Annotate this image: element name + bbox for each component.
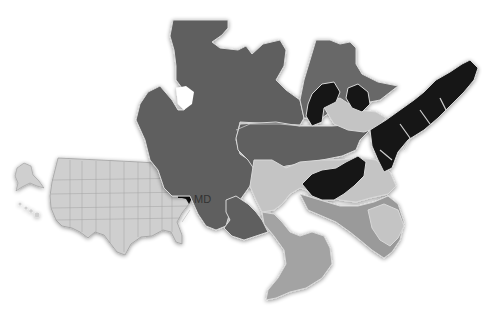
region-south <box>262 212 332 300</box>
map-canvas <box>0 0 494 315</box>
md-label: MD <box>194 193 212 205</box>
alaska-shape <box>15 163 44 191</box>
hawaii-shape <box>19 203 40 218</box>
map-figure: MD <box>0 0 494 315</box>
maryland-regions-map <box>136 20 478 300</box>
